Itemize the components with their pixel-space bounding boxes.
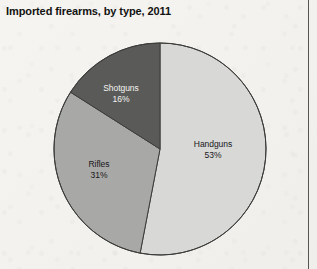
pie-label-rifles-name: Rifles — [68, 159, 130, 170]
pie-label-handguns-name: Handguns — [178, 139, 248, 150]
pie-label-shotguns-value: 16% — [82, 94, 160, 105]
pie-chart-svg — [0, 0, 317, 269]
pie-label-handguns: Handguns 53% — [178, 139, 248, 161]
pie-label-shotguns-name: Shotguns — [82, 83, 160, 94]
pie-label-shotguns: Shotguns 16% — [82, 83, 160, 105]
pie-chart: Handguns 53% Rifles 31% Shotguns 16% — [0, 0, 317, 269]
chart-page: Imported firearms, by type, 2011 Handgun… — [0, 0, 317, 269]
pie-label-handguns-value: 53% — [178, 150, 248, 161]
pie-label-rifles: Rifles 31% — [68, 159, 130, 181]
pie-label-rifles-value: 31% — [68, 170, 130, 181]
